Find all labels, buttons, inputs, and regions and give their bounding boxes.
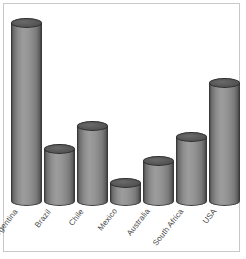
cylinder-body [209,83,240,201]
bar-south-africa[interactable] [176,137,207,201]
cylinder-top-cap [209,78,240,88]
cylinder-top-cap [143,156,174,166]
cylinder-top-cap [11,18,42,28]
bar-chile[interactable] [77,126,108,201]
bar-brazil[interactable] [44,149,75,201]
x-axis-label: Brazil [33,207,53,229]
cylinder-top-cap [110,178,141,188]
cylinder-body [176,137,207,201]
cylinder-body [11,23,42,201]
x-axis-label: Mexico [96,207,119,233]
bar-usa[interactable] [209,83,240,201]
bar-argentina[interactable] [11,23,42,201]
cylinder-top-cap [44,144,75,154]
x-axis-label: Australia [125,207,152,238]
x-axis-label: Chile [67,207,86,227]
cylinder-top-cap [77,121,108,131]
cylinder-body [77,126,108,201]
cylinder-body [143,161,174,201]
bar-mexico[interactable] [110,183,141,201]
x-axis-label: South Africa [151,207,185,247]
plot-area: ArgentinaBrazilChileMexicoAustraliaSouth… [0,0,246,259]
x-axis-label: USA [201,207,218,226]
cylinder-bar-chart: ArgentinaBrazilChileMexicoAustraliaSouth… [0,0,246,259]
cylinder-top-cap [176,132,207,142]
bar-australia[interactable] [143,161,174,201]
cylinder-body [44,149,75,201]
x-axis-label: Argentina [0,207,20,240]
